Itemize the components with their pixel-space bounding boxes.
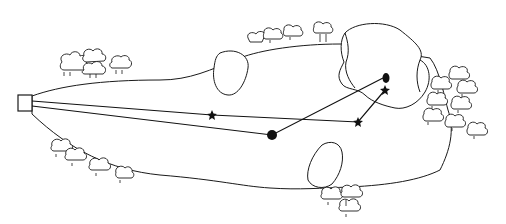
ball-marker-icon: [267, 130, 277, 140]
tee-box: [18, 95, 32, 111]
tree-cluster-top-left-icon: [60, 49, 131, 78]
golf-hole-diagram: [0, 0, 506, 224]
tree-cluster-top-middle-icon: [248, 22, 333, 43]
tree-cluster-bottom-middle-icon: [321, 185, 363, 217]
pin-icon: [383, 73, 390, 83]
